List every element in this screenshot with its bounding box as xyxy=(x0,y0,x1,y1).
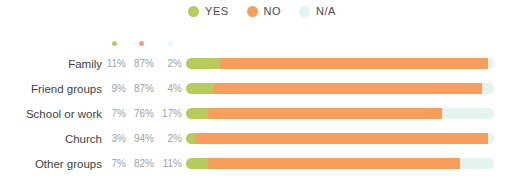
legend-dot-na-icon xyxy=(299,6,310,17)
row-percentages: 11%87%2% xyxy=(102,57,182,71)
pct-na: 11% xyxy=(156,157,182,171)
stacked-bar[interactable] xyxy=(186,58,494,69)
bar-segment-na xyxy=(488,58,494,69)
pct-yes: 11% xyxy=(102,57,126,71)
bar-segment-no xyxy=(208,108,442,119)
pct-na: 17% xyxy=(156,107,182,121)
pct-no: 87% xyxy=(128,57,154,71)
pct-no: 87% xyxy=(128,82,154,96)
chart-legend: YES NO N/A xyxy=(0,6,524,17)
chart-row: Other groups7%82%11% xyxy=(0,151,524,176)
legend-dot-yes-icon xyxy=(188,6,199,17)
bar-segment-no xyxy=(208,158,461,169)
pct-yes: 7% xyxy=(102,157,126,171)
chart-row: Friend groups9%87%4% xyxy=(0,76,524,101)
legend-label-yes: YES xyxy=(205,6,229,17)
bar-segment-yes xyxy=(186,108,208,119)
pct-no: 94% xyxy=(128,132,154,146)
pct-no: 82% xyxy=(128,157,154,171)
bar-segment-yes xyxy=(186,158,208,169)
pct-yes: 9% xyxy=(102,82,126,96)
legend-item-no[interactable]: NO xyxy=(247,6,282,17)
chart-row: School or work7%76%17% xyxy=(0,101,524,126)
bar-segment-yes xyxy=(186,83,214,94)
legend-dot-no-icon xyxy=(247,6,258,17)
bar-segment-no xyxy=(195,133,487,144)
legend-label-na: N/A xyxy=(316,6,336,17)
pct-yes: 7% xyxy=(102,107,126,121)
row-label: School or work xyxy=(0,108,102,120)
row-label: Family xyxy=(0,58,102,70)
row-label: Church xyxy=(0,133,102,145)
stacked-bar-chart: YES NO N/A Family11%87%2%Friend groups9%… xyxy=(0,0,524,180)
pct-na: 4% xyxy=(156,82,182,96)
bar-segment-na xyxy=(482,83,494,94)
stacked-bar[interactable] xyxy=(186,158,494,169)
row-label: Other groups xyxy=(0,158,102,170)
bar-segment-na xyxy=(488,133,494,144)
pct-na: 2% xyxy=(156,132,182,146)
chart-rows: Family11%87%2%Friend groups9%87%4%School… xyxy=(0,51,524,176)
chart-row: Family11%87%2% xyxy=(0,51,524,76)
pct-na: 2% xyxy=(156,57,182,71)
bar-segment-yes xyxy=(186,133,195,144)
row-percentages: 3%94%2% xyxy=(102,132,182,146)
row-percentages: 7%76%17% xyxy=(102,107,182,121)
column-dot-na-icon xyxy=(168,41,173,46)
bar-segment-yes xyxy=(186,58,220,69)
legend-label-no: NO xyxy=(264,6,282,17)
bar-segment-no xyxy=(220,58,488,69)
column-header-dots xyxy=(106,41,186,49)
pct-no: 76% xyxy=(128,107,154,121)
row-percentages: 7%82%11% xyxy=(102,157,182,171)
chart-row: Church3%94%2% xyxy=(0,126,524,151)
bar-segment-na xyxy=(442,108,494,119)
stacked-bar[interactable] xyxy=(186,108,494,119)
row-percentages: 9%87%4% xyxy=(102,82,182,96)
stacked-bar[interactable] xyxy=(186,133,494,144)
stacked-bar[interactable] xyxy=(186,83,494,94)
column-dot-yes-icon xyxy=(112,41,117,46)
legend-item-yes[interactable]: YES xyxy=(188,6,229,17)
row-label: Friend groups xyxy=(0,83,102,95)
bar-segment-no xyxy=(214,83,482,94)
column-dot-no-icon xyxy=(139,41,144,46)
bar-segment-na xyxy=(460,158,494,169)
pct-yes: 3% xyxy=(102,132,126,146)
legend-item-na[interactable]: N/A xyxy=(299,6,336,17)
